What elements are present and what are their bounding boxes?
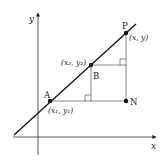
y-axis-label: y (28, 14, 35, 24)
point-N (124, 99, 128, 103)
label-A: A (43, 90, 51, 100)
label-B: B (93, 71, 99, 81)
x-axis-label: x (151, 141, 156, 151)
right-angle-marker-lower (85, 95, 91, 101)
label-P: P (122, 21, 128, 31)
label-A-coords: (x₁, y₁) (48, 106, 73, 115)
point-B (89, 63, 93, 67)
label-N: N (130, 97, 138, 107)
right-angle-marker-upper (120, 59, 126, 65)
label-P-coords: (x, y) (129, 33, 148, 42)
line-through-points (14, 24, 136, 135)
label-B-coords: (x₂, y₂) (61, 58, 86, 67)
point-P (124, 31, 128, 35)
diagram-canvas: y x P (x, y) (x₂, y₂) B A (x₁, y₁) N (0, 0, 165, 161)
